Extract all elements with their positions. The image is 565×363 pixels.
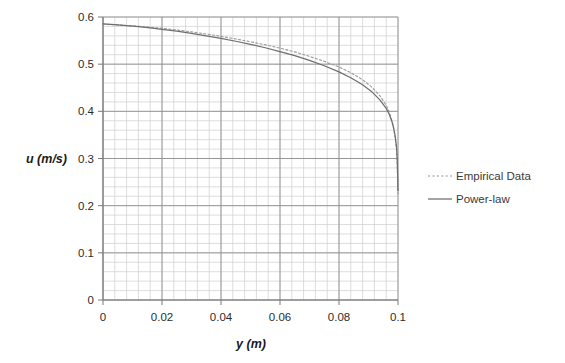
x-axis-title: y (m) <box>235 337 266 351</box>
y-axis-tick-label: 0.3 <box>78 153 94 165</box>
chart-container: 00.020.040.060.080.1 00.10.20.30.40.50.6… <box>0 0 565 363</box>
y-axis-title: u (m/s) <box>26 152 67 166</box>
x-axis-tick-label: 0.02 <box>151 311 173 323</box>
legend-label: Power-law <box>456 193 510 205</box>
x-axis-tick-label: 0 <box>100 311 106 323</box>
series-line-power-law <box>103 24 398 191</box>
data-series <box>103 24 398 194</box>
major-gridlines <box>103 17 398 300</box>
x-axis-tick-label: 0.08 <box>328 311 350 323</box>
y-axis-tick-label: 0.5 <box>78 58 94 70</box>
y-axis-tick-label: 0.2 <box>78 200 94 212</box>
line-chart: 00.020.040.060.080.1 00.10.20.30.40.50.6… <box>0 0 565 363</box>
y-axis-tick-label: 0 <box>88 294 94 306</box>
y-axis-tick-labels: 00.10.20.30.40.50.6 <box>78 11 95 306</box>
x-axis-tick-label: 0.04 <box>210 311 233 323</box>
chart-legend: Empirical DataPower-law <box>428 170 531 205</box>
y-axis-tick-label: 0.6 <box>78 11 94 23</box>
x-axis-tick-label: 0.1 <box>390 311 406 323</box>
y-axis-tick-label: 0.4 <box>78 105 95 117</box>
legend-label: Empirical Data <box>456 170 531 182</box>
y-axis-tick-label: 0.1 <box>78 247 94 259</box>
series-line-empirical-data <box>103 24 398 194</box>
x-axis-tick-labels: 00.020.040.060.080.1 <box>100 311 406 323</box>
x-axis-tick-label: 0.06 <box>269 311 291 323</box>
axis-tick-marks <box>98 17 398 305</box>
